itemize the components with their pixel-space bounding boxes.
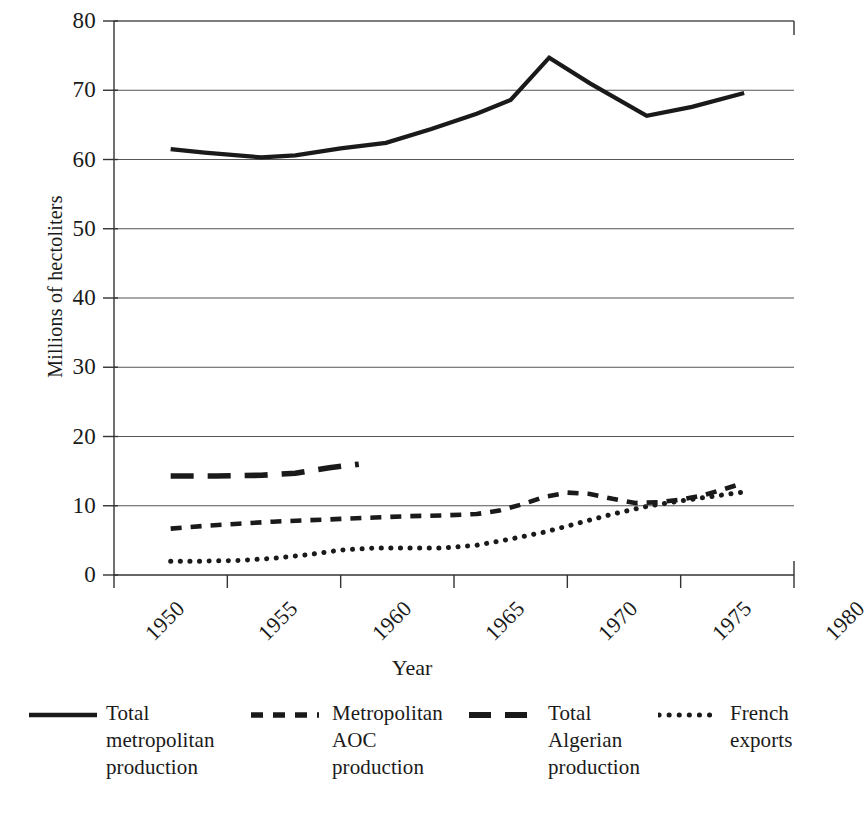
chart-canvas — [0, 0, 824, 600]
x-axis-tick-label: 1955 — [255, 597, 303, 645]
x-axis-title: Year — [0, 655, 824, 681]
x-axis-tick-label: 1960 — [368, 597, 416, 645]
y-axis-tick-label: 50 — [44, 217, 96, 240]
plot-area: Millions of hectoliters 8070605040302010… — [0, 0, 824, 600]
series-line-2 — [171, 464, 359, 476]
legend-label: Total metropolitan production — [106, 700, 250, 781]
legend-swatch-dotted-icon — [658, 709, 730, 731]
legend-item[interactable]: Total Algerian production — [468, 700, 658, 781]
x-axis-ticks — [114, 575, 794, 588]
y-axis-tick-label: 10 — [44, 494, 96, 517]
y-axis-tick-label: 30 — [44, 355, 96, 378]
legend-label: Metropolitan AOC production — [332, 700, 468, 781]
x-axis-tick-label: 1950 — [141, 597, 189, 645]
chart-legend: Total metropolitan productionMetropolita… — [28, 700, 818, 781]
y-axis-tick-label: 70 — [44, 78, 96, 101]
x-axis-tick-label: 1965 — [481, 597, 529, 645]
y-axis-ticks — [103, 21, 118, 575]
x-axis-tick-label: 1975 — [708, 597, 756, 645]
x-axis-tick-label: 1980 — [821, 597, 868, 645]
x-axis-tick-label: 1970 — [595, 597, 643, 645]
gridlines — [114, 21, 794, 506]
y-axis-tick-label: 80 — [44, 9, 96, 32]
legend-swatch-solid-icon — [28, 709, 106, 731]
legend-item[interactable]: Metropolitan AOC production — [250, 700, 468, 781]
legend-item[interactable]: Total metropolitan production — [28, 700, 250, 781]
y-axis-tick-label: 20 — [44, 425, 96, 448]
data-series-group — [171, 58, 744, 561]
legend-label: Total Algerian production — [548, 700, 658, 781]
legend-label: French exports — [730, 700, 818, 754]
legend-item[interactable]: French exports — [658, 700, 818, 754]
series-line-3 — [171, 492, 744, 561]
legend-swatch-dashed-short-icon — [250, 709, 332, 731]
y-axis-tick-label: 60 — [44, 148, 96, 171]
y-axis-tick-label: 40 — [44, 286, 96, 309]
series-line-0 — [171, 58, 744, 158]
y-axis-tick-label: 0 — [44, 563, 96, 586]
legend-swatch-dashed-long-icon — [468, 709, 548, 731]
